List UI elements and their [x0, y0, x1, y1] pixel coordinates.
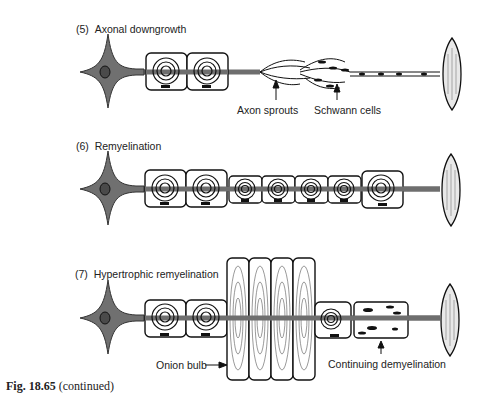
arrow-continuing-demyelination — [378, 341, 384, 354]
panel-5-title: (5) Axonal downgrowth — [76, 23, 186, 35]
figure-caption: Fig. 18.65 (continued) — [6, 379, 114, 394]
arrow-schwann-cells — [334, 84, 340, 100]
label-continuing-demyelination: Continuing demyelination — [328, 358, 446, 370]
label-axon-sprouts: Axon sprouts — [237, 104, 298, 116]
arrow-axon-sprouts — [273, 80, 279, 100]
panel-7-title: (7) Hypertrophic remyelination — [75, 268, 219, 280]
panel-remyelination — [80, 151, 460, 226]
label-schwann-cells: Schwann cells — [314, 104, 381, 116]
panel-axonal-downgrowth — [80, 34, 461, 110]
panel-6-title: (6) Remyelination — [76, 140, 161, 152]
diagram-canvas — [0, 0, 484, 401]
arrow-onion-bulb — [205, 362, 227, 368]
label-onion-bulb: Onion bulb — [156, 359, 207, 371]
